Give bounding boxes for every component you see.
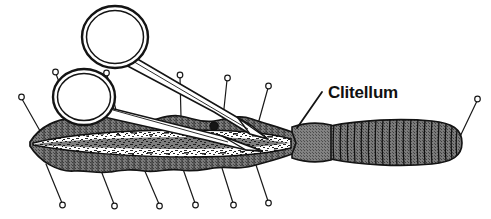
- clitellum-band: [292, 123, 331, 161]
- scissor-lower-ring: [53, 69, 115, 125]
- scissor-upper-ring: [82, 6, 148, 68]
- clitellum-outline: [292, 123, 331, 161]
- dissection-illustration: Clitellum: [0, 0, 491, 219]
- clitellum-label: Clitellum: [328, 83, 398, 102]
- worm-posterior-tail: [330, 118, 462, 166]
- scissor-pivot-screw: [210, 122, 218, 130]
- dissection-figure: Clitellum: [0, 0, 491, 219]
